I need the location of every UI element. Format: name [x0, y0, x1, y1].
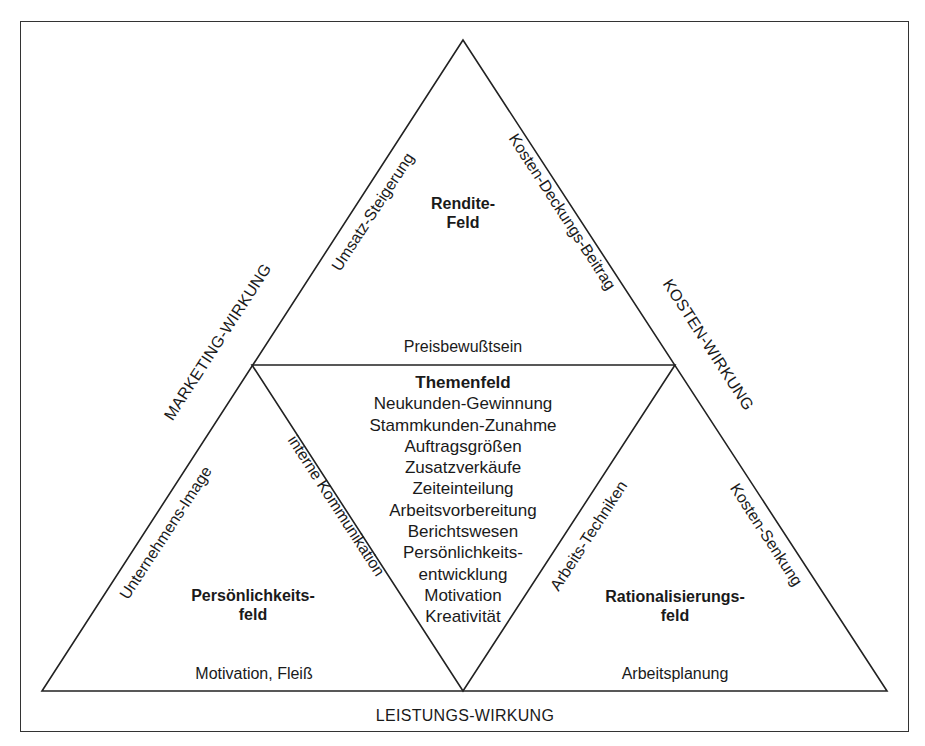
rendite-feld-title-line1: Rendite-: [431, 194, 495, 213]
themenfeld-item: Auftragsgrößen: [369, 436, 556, 457]
themenfeld-item: Persönlichkeits-: [369, 542, 556, 563]
themenfeld-item: entwicklung: [369, 564, 556, 585]
themenfeld-item: Kreativität: [369, 606, 556, 627]
themenfeld-title: Themenfeld: [369, 372, 556, 393]
motivation-fleiss-label: Motivation, Fleiß: [195, 666, 312, 682]
themenfeld: Themenfeld Neukunden-Gewinnung Stammkund…: [369, 372, 556, 628]
themenfeld-item: Zeiteinteilung: [369, 478, 556, 499]
arbeitsplanung-label: Arbeitsplanung: [622, 666, 729, 682]
rationalisierungsfeld-title: Rationalisierungs- feld: [605, 587, 745, 625]
persoenlichkeitsfeld-title-line2: feld: [191, 605, 315, 624]
themenfeld-item: Zusatzverkäufe: [369, 457, 556, 478]
rendite-feld-title: Rendite- Feld: [431, 194, 495, 232]
persoenlichkeitsfeld-title-line1: Persönlichkeits-: [191, 586, 315, 605]
themenfeld-item: Arbeitsvorbereitung: [369, 500, 556, 521]
persoenlichkeitsfeld-title: Persönlichkeits- feld: [191, 586, 315, 624]
themenfeld-item: Stammkunden-Zunahme: [369, 415, 556, 436]
rendite-feld-title-line2: Feld: [431, 213, 495, 232]
themenfeld-item: Berichtswesen: [369, 521, 556, 542]
preisbewusstsein-label: Preisbewußtsein: [404, 339, 522, 355]
rationalisierungsfeld-title-line1: Rationalisierungs-: [605, 587, 745, 606]
leistungs-wirkung-label: LEISTUNGS-WIRKUNG: [376, 708, 554, 724]
themenfeld-item: Motivation: [369, 585, 556, 606]
rationalisierungsfeld-title-line2: feld: [605, 606, 745, 625]
themenfeld-item: Neukunden-Gewinnung: [369, 393, 556, 414]
